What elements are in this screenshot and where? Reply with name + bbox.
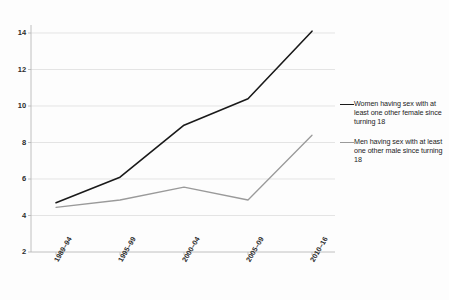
y-tick-label-4: 4	[8, 212, 26, 220]
y-tick-label-8: 8	[8, 139, 26, 147]
legend-label: Women having sex with at least one other…	[354, 99, 449, 127]
line-chart-svg	[0, 0, 345, 300]
legend-swatch-women-icon	[340, 101, 354, 108]
series-line-women	[56, 31, 312, 203]
chart-page: 2468101214 1989–941995–992000–042005–092…	[0, 0, 449, 300]
chart-legend: Women having sex with at least one other…	[340, 99, 449, 174]
y-tick-label-6: 6	[8, 175, 26, 183]
legend-entry-men[interactable]: Men having sex with at least one other m…	[340, 137, 449, 165]
y-tick-label-14: 14	[8, 29, 26, 37]
y-tick-label-2: 2	[8, 248, 26, 256]
y-tick-label-10: 10	[8, 102, 26, 110]
legend-label: Men having sex with at least one other m…	[354, 137, 449, 165]
series-line-men	[56, 135, 312, 207]
legend-swatch-men-icon	[340, 139, 354, 146]
y-tick-label-12: 12	[8, 66, 26, 74]
legend-entry-women[interactable]: Women having sex with at least one other…	[340, 99, 449, 127]
chart-plot-area: 2468101214 1989–941995–992000–042005–092…	[0, 0, 345, 300]
